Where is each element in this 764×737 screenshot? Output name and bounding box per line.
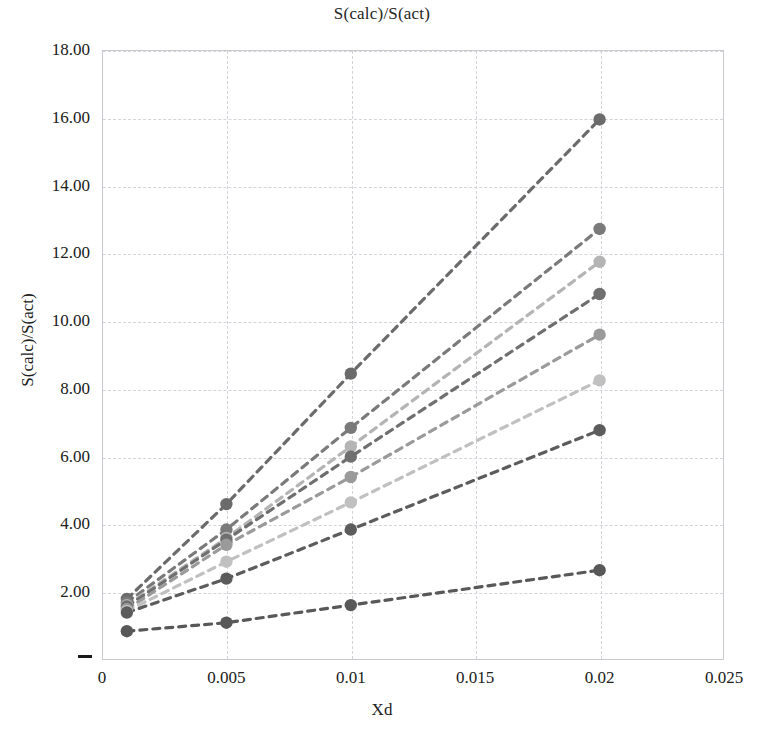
- x-axis-tick-label: 0.025: [705, 668, 743, 688]
- y-axis-zero-tick: [78, 655, 92, 658]
- gridline-vertical: [476, 51, 477, 659]
- y-axis-tick-label: 4.00: [60, 514, 90, 534]
- x-axis-tick-label: 0.015: [456, 668, 494, 688]
- y-axis-tick-label: 16.00: [52, 108, 90, 128]
- gridline-horizontal: [103, 119, 723, 120]
- chart-page: S(calc)/S(act) S(calc)/S(act) Xd 2.004.0…: [0, 0, 764, 737]
- x-axis-tick-label: 0: [98, 668, 107, 688]
- gridline-horizontal: [103, 593, 723, 594]
- gridline-vertical: [601, 51, 602, 659]
- x-axis-tick-label: 0.01: [336, 668, 366, 688]
- gridline-horizontal: [103, 525, 723, 526]
- gridline-horizontal: [103, 51, 723, 52]
- gridline-vertical: [352, 51, 353, 659]
- plot-area: [102, 50, 724, 660]
- gridline-horizontal: [103, 322, 723, 323]
- gridline-horizontal: [103, 254, 723, 255]
- gridline-horizontal: [103, 187, 723, 188]
- y-axis-tick-label: 14.00: [52, 176, 90, 196]
- x-axis-tick-label: 0.02: [585, 668, 615, 688]
- y-axis-tick-label: 18.00: [52, 40, 90, 60]
- chart-title: S(calc)/S(act): [0, 4, 764, 24]
- y-axis-tick-label: 12.00: [52, 243, 90, 263]
- x-axis-title: Xd: [0, 700, 764, 720]
- y-axis-tick-label: 2.00: [60, 582, 90, 602]
- y-axis-tick-label: 8.00: [60, 379, 90, 399]
- y-axis-title: S(calc)/S(act): [18, 250, 38, 430]
- gridline-horizontal: [103, 390, 723, 391]
- gridline-vertical: [227, 51, 228, 659]
- x-axis-tick-label: 0.005: [207, 668, 245, 688]
- y-axis-tick-label: 6.00: [60, 447, 90, 467]
- gridline-horizontal: [103, 458, 723, 459]
- y-axis-tick-label: 10.00: [52, 311, 90, 331]
